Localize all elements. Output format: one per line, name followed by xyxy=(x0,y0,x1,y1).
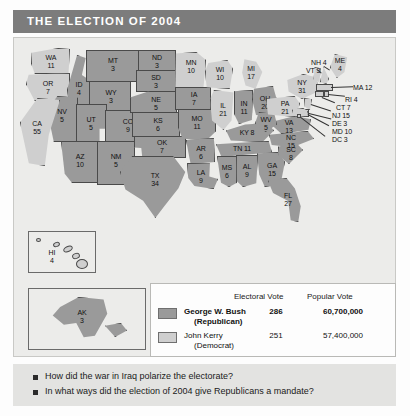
state-HI-bigisland[interactable] xyxy=(76,259,88,269)
bullet-icon-2 xyxy=(33,390,38,395)
state-label-CA: CA 55 xyxy=(24,120,50,135)
state-label-OK: OK 7 xyxy=(148,139,176,154)
leader-line-ct xyxy=(322,97,335,103)
state-label-TX: TX 34 xyxy=(140,172,170,187)
state-label-NY: NY 31 xyxy=(290,79,314,94)
state-label-NJ: NJ 15 xyxy=(332,112,362,120)
state-label-UT: UT 5 xyxy=(78,116,104,131)
column-header-popular: Popular Vote xyxy=(307,292,353,301)
state-label-IN: IN 11 xyxy=(234,100,254,115)
state-label-IL: IL 21 xyxy=(212,102,234,117)
state-label-MD: MD 10 xyxy=(332,128,362,136)
legend-swatch-bush xyxy=(158,308,177,319)
state-label-ID: ID 4 xyxy=(68,81,90,96)
state-label-DC: DC 3 xyxy=(332,136,360,144)
leader-line-ma xyxy=(331,86,353,88)
alaska-inset: AK 3 xyxy=(28,288,146,350)
state-label-LA: LA 9 xyxy=(189,169,213,184)
state-label-KS: KS 6 xyxy=(144,117,172,132)
state-label-MI: MI 17 xyxy=(239,65,263,80)
question-2: In what ways did the election of 2004 gi… xyxy=(45,386,314,396)
legend-table: Electoral Vote Popular Vote George W. Bu… xyxy=(150,283,396,357)
state-label-GA: GA 15 xyxy=(260,162,284,177)
figure-title-bar: THE ELECTION OF 2004 xyxy=(13,10,396,33)
state-label-MS: MS 6 xyxy=(217,164,237,179)
state-label-CT: CT 7 xyxy=(336,104,362,112)
state-label-DE: DE 3 xyxy=(332,120,360,128)
question-1: How did the war in Iraq polarize the ele… xyxy=(45,371,233,381)
state-label-WI: WI 10 xyxy=(207,66,233,81)
state-label-NE: NE 5 xyxy=(142,96,170,111)
questions-panel: How did the war in Iraq polarize the ele… xyxy=(13,364,396,406)
legend-swatch-kerry xyxy=(158,332,177,343)
state-label-AL: AL 9 xyxy=(237,163,257,178)
leader-line-nj xyxy=(311,104,331,111)
state-label-OR: OR 7 xyxy=(33,80,63,95)
legend-party-kerry: (Democrat) xyxy=(194,341,234,351)
state-label-RI: RI 4 xyxy=(345,96,371,104)
state-label-TN: TN 11 xyxy=(222,145,262,153)
legend-popular-bush: 60,700,000 xyxy=(303,307,383,316)
state-label-IA: IA 7 xyxy=(181,91,207,106)
state-label-WV: WV 5 xyxy=(255,116,277,131)
state-HI-isle2[interactable] xyxy=(52,241,60,248)
state-CT[interactable] xyxy=(315,91,324,97)
state-label-HI: HI 4 xyxy=(41,249,63,264)
state-AK-panhandle[interactable] xyxy=(105,323,127,337)
state-label-SD: SD 3 xyxy=(142,74,170,89)
state-label-FL: FL 27 xyxy=(276,192,300,207)
legend-party-bush: (Republican) xyxy=(194,317,242,327)
legend-name-bush: George W. Bush xyxy=(184,307,246,317)
state-label-MO: MO 11 xyxy=(183,115,211,130)
column-header-electoral: Electoral Vote xyxy=(234,292,283,301)
legend-electoral-bush: 286 xyxy=(246,307,306,316)
legend-electoral-kerry: 251 xyxy=(246,331,306,340)
bullet-icon-1 xyxy=(33,375,38,380)
state-label-AK: AK 3 xyxy=(71,309,93,324)
page-title: THE ELECTION OF 2004 xyxy=(27,15,181,27)
state-label-ND: ND 3 xyxy=(144,54,170,69)
state-label-MA: MA 12 xyxy=(353,84,383,92)
hawaii-inset: HI 4 xyxy=(28,231,96,273)
state-label-MT: MT 3 xyxy=(98,57,128,72)
legend-name-kerry: John Kerry xyxy=(184,331,223,341)
state-HI[interactable] xyxy=(36,238,41,242)
state-label-WY: WY 3 xyxy=(96,89,126,104)
state-label-VA: VA 13 xyxy=(276,119,302,134)
state-label-NC: NC 15 xyxy=(276,134,306,149)
legend-popular-kerry: 57,400,000 xyxy=(303,331,383,340)
state-label-AR: AR 6 xyxy=(189,145,213,160)
state-label-AZ: AZ 10 xyxy=(66,153,94,168)
election-map-figure: THE ELECTION OF 2004 WA 11 OR 7 ID 4 MT … xyxy=(0,0,410,416)
state-HI-isle3[interactable] xyxy=(62,244,74,254)
state-label-MN: MN 10 xyxy=(177,59,205,74)
state-label-WA: WA 11 xyxy=(36,54,66,69)
leader-line-ri xyxy=(328,94,345,97)
